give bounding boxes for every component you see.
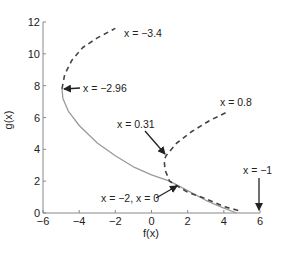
y-axis-label: g(x) bbox=[2, 111, 14, 130]
y-tick-label: 2 bbox=[34, 175, 40, 187]
y-tick-label: 8 bbox=[34, 80, 40, 92]
annotation-x-neg3.4: x = −3.4 bbox=[124, 27, 162, 39]
y-tick-label: 0 bbox=[34, 207, 40, 219]
y-tick-label: 4 bbox=[34, 143, 40, 155]
x-tick-label: −4 bbox=[73, 215, 86, 227]
dashed-curve bbox=[62, 28, 115, 88]
annotation-x-neg1: x = −1 bbox=[243, 164, 272, 176]
x-tick-label: −2 bbox=[109, 215, 122, 227]
chart: −6−4−20246 024681012 f(x) g(x) x = −3.4 … bbox=[0, 0, 297, 257]
x-tick-label: 0 bbox=[148, 215, 154, 227]
arrow-x-neg2-x-0 bbox=[156, 186, 177, 198]
x-tick-label: 4 bbox=[221, 215, 227, 227]
x-tick-label: 6 bbox=[257, 215, 263, 227]
arrow-x-0.31 bbox=[145, 131, 165, 154]
annotation-x-0.8: x = 0.8 bbox=[220, 96, 252, 108]
annotation-x-0.31: x = 0.31 bbox=[117, 118, 155, 130]
x-axis-label: f(x) bbox=[143, 227, 159, 239]
dashed-curve bbox=[164, 113, 242, 212]
arrow-x-neg2.96 bbox=[64, 88, 80, 89]
y-tick-label: 10 bbox=[28, 48, 40, 60]
annotation-x-neg2-x-0: x = −2, x = 0 bbox=[101, 192, 159, 204]
x-tick-label: 2 bbox=[185, 215, 191, 227]
y-tick-label: 12 bbox=[28, 16, 40, 28]
annotations: x = −3.4 x = −2.96 x = 0.8 x = 0.31 x = … bbox=[64, 27, 272, 210]
y-tick-label: 6 bbox=[34, 112, 40, 124]
annotation-x-neg2.96: x = −2.96 bbox=[83, 82, 127, 94]
